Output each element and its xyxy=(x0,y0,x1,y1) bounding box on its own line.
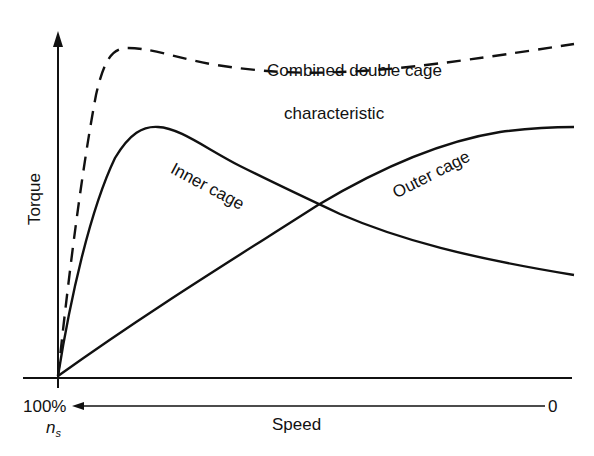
x-tick-left: 100% xyxy=(23,398,66,415)
label-combined-double-cage: Combined double cage xyxy=(267,62,442,79)
x-tick-left-sub: ns xyxy=(46,419,61,439)
speed-arrowhead-left xyxy=(72,402,84,410)
x-tick-left-s: s xyxy=(55,427,61,439)
y-axis-label: Torque xyxy=(26,173,43,225)
outer-cage-curve xyxy=(58,127,574,376)
x-axis-label: Speed xyxy=(272,416,321,433)
clipped-top-text xyxy=(232,0,236,6)
x-tick-right: 0 xyxy=(548,398,557,415)
combined-double-cage-curve xyxy=(58,44,574,376)
inner-cage-curve xyxy=(58,127,574,376)
y-axis-arrowhead xyxy=(53,31,63,47)
label-characteristic: characteristic xyxy=(284,105,384,122)
